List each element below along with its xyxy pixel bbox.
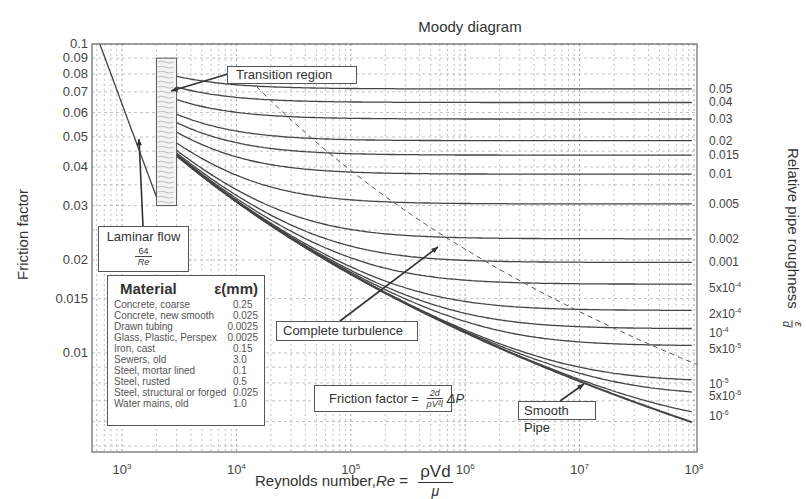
material-roughness: 0.025 xyxy=(233,387,258,398)
material-name: Drawn tubing xyxy=(114,321,227,332)
roughness-label: 0.001 xyxy=(709,256,739,269)
y-tick-label: 0.05 xyxy=(63,130,88,144)
laminar-flow-annotation: Laminar flow 64 Re xyxy=(98,226,189,272)
roughness-label: 10-4 xyxy=(709,323,729,340)
y-tick-label: 0.02 xyxy=(63,253,88,267)
y-tick-label: 0.1 xyxy=(70,37,88,51)
x-tick-label: 104 xyxy=(216,462,256,477)
material-name: Concrete, new smooth xyxy=(114,310,233,321)
friction-fraction: 2d ρV²l xyxy=(427,388,443,409)
y-axis-label: Friction factor xyxy=(14,175,31,295)
x-tick-label: 103 xyxy=(102,462,142,477)
roughness-label: 5x10-5 xyxy=(709,339,741,356)
y2-axis-label: Relative pipe roughness ε d xyxy=(781,138,804,338)
y2-axis-label-text: Relative pipe roughness xyxy=(785,148,802,309)
material-roughness: 0.025 xyxy=(233,310,258,321)
material-name: Steel, mortar lined xyxy=(114,365,233,376)
material-name: Water mains, old xyxy=(114,398,233,409)
y-tick-label: 0.04 xyxy=(63,160,88,174)
roughness-label: 5x10-4 xyxy=(709,278,741,295)
material-roughness: 3.0 xyxy=(233,354,247,365)
material-row: Steel, structural or forged0.025 xyxy=(114,387,258,398)
material-row: Steel, mortar lined0.1 xyxy=(114,365,258,376)
roughness-label: 0.002 xyxy=(709,233,739,246)
material-row: Iron, cast0.15 xyxy=(114,343,258,354)
material-row: Glass, Plastic, Perspex0.0025 xyxy=(114,332,258,343)
roughness-label: 0.005 xyxy=(709,198,739,211)
material-roughness: 0.25 xyxy=(233,299,252,310)
material-roughness: 0.1 xyxy=(233,365,247,376)
roughness-label: 5x10-6 xyxy=(709,386,741,403)
material-roughness-table: Material ε(mm) Concrete, coarse0.25Concr… xyxy=(107,275,265,426)
y-tick-label: 0.06 xyxy=(63,106,88,120)
y-tick-label: 0.01 xyxy=(63,346,88,360)
roughness-label: 10-6 xyxy=(709,406,729,423)
material-row: Water mains, old1.0 xyxy=(114,398,258,409)
material-roughness: 0.0025 xyxy=(227,321,258,332)
material-roughness: 0.5 xyxy=(233,376,247,387)
roughness-label: 0.015 xyxy=(709,149,739,162)
material-row: Steel, rusted0.5 xyxy=(114,376,258,387)
x-tick-label: 107 xyxy=(560,462,600,477)
roughness-label: 0.02 xyxy=(709,135,732,148)
y-tick-label: 0.08 xyxy=(63,67,88,81)
y-tick-label: 0.015 xyxy=(55,292,88,306)
material-name: Sewers, old xyxy=(114,354,233,365)
y-tick-label: 0.09 xyxy=(63,51,88,65)
eps-over-d-fraction: ε d xyxy=(781,321,804,327)
material-name: Steel, structural or forged xyxy=(114,387,233,398)
roughness-label: 0.01 xyxy=(709,168,732,181)
re-fraction: ρVd μ xyxy=(418,462,452,499)
material-name: Steel, rusted xyxy=(114,376,233,387)
material-table-header: Material ε(mm) xyxy=(114,280,258,297)
smooth-pipe-annotation: Smooth Pipe xyxy=(518,401,596,420)
y-tick-label: 0.03 xyxy=(63,199,88,213)
x-tick-label: 108 xyxy=(674,462,714,477)
material-name: Glass, Plastic, Perspex xyxy=(114,332,227,343)
transition-region-annotation: Transition region xyxy=(227,66,357,84)
chart-title: Moody diagram xyxy=(70,18,806,35)
material-name: Concrete, coarse xyxy=(114,299,233,310)
material-roughness: 0.0025 xyxy=(227,332,258,343)
roughness-label: 0.05 xyxy=(709,83,732,96)
roughness-label: 0.04 xyxy=(709,96,732,109)
friction-factor-formula: Friction factor = 2d ρV²l ΔP xyxy=(314,385,452,412)
material-row: Sewers, old3.0 xyxy=(114,354,258,365)
material-table-rows: Concrete, coarse0.25Concrete, new smooth… xyxy=(114,299,258,409)
complete-turbulence-annotation: Complete turbulence xyxy=(276,321,418,341)
laminar-fraction: 64 Re xyxy=(135,246,151,267)
material-row: Concrete, new smooth0.025 xyxy=(114,310,258,321)
roughness-label: 0.03 xyxy=(709,113,732,126)
x-axis-label: Reynolds number, Re = ρVd μ xyxy=(255,462,453,499)
material-row: Drawn tubing0.0025 xyxy=(114,321,258,332)
material-name: Iron, cast xyxy=(114,343,233,354)
y-tick-label: 0.07 xyxy=(63,85,88,99)
material-roughness: 0.15 xyxy=(233,343,252,354)
roughness-label: 2x10-4 xyxy=(709,304,741,321)
material-roughness: 1.0 xyxy=(233,398,247,409)
material-row: Concrete, coarse0.25 xyxy=(114,299,258,310)
